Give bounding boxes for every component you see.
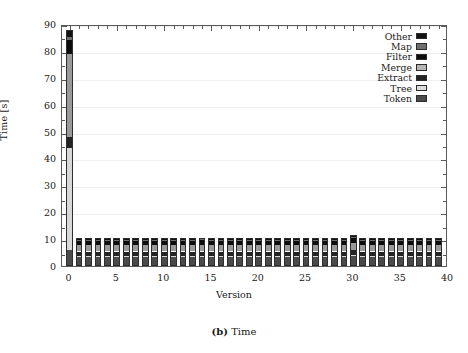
bar-segment-merge xyxy=(189,245,196,251)
x-tick-major xyxy=(117,26,118,31)
legend-item-tree: Tree xyxy=(355,83,427,93)
bar-segment-merge xyxy=(435,245,442,251)
x-tick-minor xyxy=(429,26,430,29)
bar-segment-token xyxy=(274,257,281,266)
bar-segment-other xyxy=(95,238,102,240)
bar-segment-tree xyxy=(199,256,206,257)
bar-segment-extract xyxy=(388,252,395,256)
x-tick-major xyxy=(259,26,260,31)
y-tick-label: 90 xyxy=(30,20,56,30)
legend-item-extract: Extract xyxy=(355,73,427,83)
y-tick-minor xyxy=(443,147,446,148)
bar-segment-extract xyxy=(161,252,168,256)
bar-segment-filter xyxy=(123,241,130,245)
bar-segment-merge xyxy=(388,245,395,251)
legend-label: Token xyxy=(384,94,416,103)
bar-segment-merge xyxy=(303,245,310,251)
bar-segment-other xyxy=(312,238,319,240)
bar-segment-map xyxy=(85,240,92,241)
bar-segment-extract xyxy=(199,252,206,256)
bar-segment-tree xyxy=(341,256,348,257)
gridline xyxy=(62,26,446,27)
bar-segment-tree xyxy=(95,256,102,257)
bar xyxy=(95,238,102,266)
bar-segment-map xyxy=(246,240,253,241)
bar-segment-token xyxy=(113,257,120,266)
bar-segment-tree xyxy=(227,256,234,257)
bar-segment-merge xyxy=(255,245,262,251)
bar xyxy=(378,238,385,266)
bar-segment-map xyxy=(312,240,319,241)
bar-segment-merge xyxy=(426,245,433,251)
bar-segment-tree xyxy=(104,256,111,257)
bar-segment-other xyxy=(246,238,253,240)
legend: OtherMapFilterMergeExtractTreeToken xyxy=(355,31,427,104)
bar-segment-filter xyxy=(284,241,291,245)
y-tick-minor xyxy=(62,201,65,202)
bar-segment-merge xyxy=(369,245,376,251)
bar-segment-token xyxy=(66,250,73,266)
bar-segment-other xyxy=(85,238,92,240)
bar-segment-other xyxy=(180,238,187,240)
bar-segment-tree xyxy=(132,256,139,257)
bar-segment-other xyxy=(293,238,300,240)
bar-segment-extract xyxy=(189,252,196,256)
legend-swatch xyxy=(416,64,427,71)
bar-segment-other xyxy=(426,238,433,240)
x-tick-label: 20 xyxy=(243,273,273,283)
legend-item-token: Token xyxy=(355,93,427,103)
bar-segment-map xyxy=(341,240,348,241)
bar-segment-filter xyxy=(435,241,442,245)
bar-segment-token xyxy=(208,257,215,266)
bar-segment-token xyxy=(180,257,187,266)
y-tick-minor xyxy=(62,66,65,67)
bar-segment-filter xyxy=(350,238,357,243)
bar-segment-map xyxy=(350,237,357,238)
bar-segment-tree xyxy=(397,256,404,257)
bar-segment-token xyxy=(227,257,234,266)
bar-segment-extract xyxy=(378,252,385,256)
bar-segment-extract xyxy=(312,252,319,256)
bar xyxy=(435,238,442,266)
bar-segment-merge xyxy=(218,245,225,251)
bar-segment-merge xyxy=(341,245,348,251)
bar-segment-other xyxy=(170,238,177,240)
x-tick-minor xyxy=(268,26,269,29)
bar-segment-other xyxy=(255,238,262,240)
bar-segment-merge xyxy=(113,245,120,251)
bar-segment-token xyxy=(369,257,376,266)
y-tick-label: 10 xyxy=(30,235,56,245)
y-tick-minor xyxy=(443,255,446,256)
bar-segment-extract xyxy=(113,252,120,256)
legend-label: Filter xyxy=(386,52,416,61)
bar-segment-map xyxy=(255,240,262,241)
bar-segment-filter xyxy=(104,241,111,245)
y-axis-label: Time [s] xyxy=(0,100,9,141)
bar-segment-tree xyxy=(180,256,187,257)
bar-segment-map xyxy=(218,240,225,241)
bar-segment-map xyxy=(208,240,215,241)
bar-segment-extract xyxy=(322,252,329,256)
y-tick-label: 60 xyxy=(30,101,56,111)
bar xyxy=(284,238,291,266)
gridline xyxy=(62,134,446,135)
bar-segment-merge xyxy=(227,245,234,251)
x-tick-minor xyxy=(183,26,184,29)
bar-segment-token xyxy=(151,257,158,266)
bar-segment-filter xyxy=(170,241,177,245)
bar-segment-token xyxy=(350,256,357,266)
bar-segment-filter xyxy=(378,241,385,245)
bar-segment-other xyxy=(265,238,272,240)
bar-segment-extract xyxy=(180,252,187,256)
legend-swatch xyxy=(416,54,427,61)
bar-segment-map xyxy=(265,240,272,241)
bar-segment-map xyxy=(76,240,83,241)
bar-segment-token xyxy=(407,257,414,266)
bar-segment-merge xyxy=(161,245,168,251)
x-tick-minor xyxy=(372,26,373,29)
x-tick-minor xyxy=(420,26,421,29)
bar-segment-token xyxy=(236,257,243,266)
bar-segment-merge xyxy=(274,245,281,251)
legend-swatch xyxy=(416,85,427,92)
bar-segment-tree xyxy=(435,256,442,257)
